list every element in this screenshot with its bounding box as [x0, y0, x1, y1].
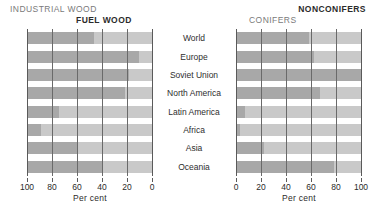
category-label: Latin America — [154, 106, 234, 118]
plot-area-left — [27, 29, 153, 176]
axis-tick-label: 80 — [47, 182, 56, 192]
axis-title: Per cent — [282, 193, 316, 203]
bar-segment — [27, 69, 129, 81]
legend-label-industrial-wood: INDUSTRIAL WOOD — [10, 4, 97, 14]
bar-row — [27, 142, 153, 154]
axis-tick-label: 60 — [72, 182, 81, 192]
bar-row — [236, 106, 362, 118]
bar-segment — [59, 106, 154, 118]
gridline — [336, 29, 337, 176]
bar-segment — [27, 124, 41, 136]
bar-row — [236, 87, 362, 99]
bar-segment — [236, 87, 320, 99]
gridline — [261, 29, 262, 176]
gridline — [127, 29, 128, 176]
bar-segment — [245, 106, 362, 118]
axis-tick-label: 40 — [281, 182, 290, 192]
bar-segment — [27, 106, 59, 118]
bar-row — [27, 106, 153, 118]
category-label: Africa — [154, 124, 234, 136]
bar-segment — [27, 32, 94, 44]
bar-segment — [129, 69, 153, 81]
axis-tick-label: 100 — [20, 182, 34, 192]
axis-tick-label: 20 — [256, 182, 265, 192]
x-axis-left: 100806040200Per cent — [27, 178, 153, 208]
axis-tick-label: 0 — [234, 182, 239, 192]
gridline — [152, 29, 153, 176]
bar-row — [236, 32, 362, 44]
axis-tick-label: 40 — [97, 182, 106, 192]
bar-row — [27, 69, 153, 81]
bar-segment — [334, 161, 362, 173]
bar-row — [236, 69, 362, 81]
bar-segment — [41, 124, 153, 136]
bar-segment — [314, 51, 362, 63]
gridline — [27, 29, 28, 176]
chart-panel-right — [236, 29, 362, 176]
bar-segment — [240, 124, 362, 136]
category-label-column: WorldEuropeSoviet UnionNorth AmericaLati… — [154, 29, 234, 176]
bar-row — [27, 87, 153, 99]
bar-segment — [139, 51, 153, 63]
axis-title: Per cent — [73, 193, 107, 203]
gridline — [77, 29, 78, 176]
bar-segment — [125, 87, 153, 99]
bar-row — [27, 32, 153, 44]
x-axis-right: 020406080100Per cent — [236, 178, 362, 208]
gridline — [102, 29, 103, 176]
axis-tick-label: 20 — [122, 182, 131, 192]
axis-tick-label: 100 — [354, 182, 368, 192]
legend-label-nonconifers: NONCONIFERS — [298, 4, 366, 14]
legend-label-conifers: CONIFERS — [249, 15, 297, 25]
bar-segment — [77, 142, 153, 154]
bar-segment — [27, 51, 139, 63]
bar-row — [236, 142, 362, 154]
bar-row — [236, 124, 362, 136]
bar-segment — [236, 51, 314, 63]
category-label: North America — [154, 87, 234, 99]
chart-panel-left — [27, 29, 153, 176]
bar-row — [236, 161, 362, 173]
gridline — [52, 29, 53, 176]
gridline — [286, 29, 287, 176]
category-label: Europe — [154, 51, 234, 63]
category-label: Oceania — [154, 161, 234, 173]
bar-segment — [236, 69, 362, 81]
plot-area-right — [236, 29, 362, 176]
bar-row — [236, 51, 362, 63]
bar-row — [27, 51, 153, 63]
gridline — [361, 29, 362, 176]
axis-tick-label: 60 — [306, 182, 315, 192]
gridline — [311, 29, 312, 176]
gridline — [236, 29, 237, 176]
bar-segment — [320, 87, 362, 99]
bar-segment — [236, 106, 245, 118]
bar-segment — [264, 142, 362, 154]
axis-tick-label: 0 — [150, 182, 155, 192]
bar-segment — [27, 161, 103, 173]
axis-tick-label: 80 — [331, 182, 340, 192]
legend-label-fuel-wood: FUEL WOOD — [76, 15, 132, 25]
bar-row — [27, 161, 153, 173]
category-label: Soviet Union — [154, 69, 234, 81]
bar-segment — [236, 142, 264, 154]
category-label: Asia — [154, 142, 234, 154]
category-label: World — [154, 32, 234, 44]
bar-segment — [236, 32, 309, 44]
bar-row — [27, 124, 153, 136]
